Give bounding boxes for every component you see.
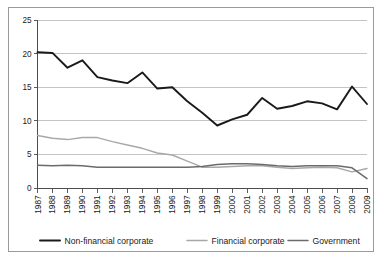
series-lines <box>38 52 368 178</box>
x-tick-label: 1988 <box>48 195 57 214</box>
x-tick-label: 1998 <box>198 195 207 214</box>
x-tick-label: 2006 <box>318 195 327 214</box>
y-tick-labels: 0510152025 <box>22 16 32 193</box>
chart-figure: 0510152025 19871988198919901991199219931… <box>0 0 384 264</box>
legend-label-government: Government <box>313 236 361 246</box>
y-tick-label: 25 <box>22 16 32 25</box>
x-tick-label: 1990 <box>78 195 87 214</box>
y-tick-label: 15 <box>22 83 32 92</box>
y-tick-label: 10 <box>22 117 32 126</box>
x-tick-label: 2000 <box>228 195 237 214</box>
x-tick-label: 1991 <box>93 195 102 214</box>
x-tick-label: 2003 <box>273 195 282 214</box>
y-tick-label: 5 <box>27 150 32 159</box>
x-tick-label: 2002 <box>258 195 267 214</box>
x-tick-label: 1993 <box>123 195 132 214</box>
series-line-non-financial-corporate <box>38 52 368 125</box>
x-tick-label: 1995 <box>153 195 162 214</box>
x-tick-label: 1989 <box>63 195 72 214</box>
x-tick-label: 2004 <box>288 195 297 214</box>
x-tick-label: 1987 <box>34 195 43 214</box>
x-tick-label: 2001 <box>243 195 252 214</box>
legend-label-financial-corporate: Financial corporate <box>212 236 285 246</box>
x-tick-label: 1996 <box>168 195 177 214</box>
series-line-government <box>38 164 368 179</box>
y-axis <box>34 20 38 188</box>
line-chart: 0510152025 19871988198919901991199219931… <box>0 0 384 264</box>
gridlines <box>38 20 368 188</box>
x-tick-labels: 1987198819891990199119921993199419951996… <box>34 195 373 214</box>
x-tick-label: 2005 <box>303 195 312 214</box>
y-tick-label: 20 <box>22 50 32 59</box>
x-tick-label: 2008 <box>348 195 357 214</box>
x-tick-label: 1999 <box>213 195 222 214</box>
y-tick-label: 0 <box>27 184 32 193</box>
x-tick-label: 2007 <box>333 195 342 214</box>
x-tick-label: 2009 <box>363 195 372 214</box>
x-tick-label: 1992 <box>108 195 117 214</box>
x-tick-label: 1994 <box>138 195 147 214</box>
legend-label-non-financial-corporate: Non-financial corporate <box>65 236 154 246</box>
chart-legend: Non-financial corporateFinancial corpora… <box>40 236 360 246</box>
x-tick-label: 1997 <box>183 195 192 214</box>
x-axis <box>38 188 368 193</box>
